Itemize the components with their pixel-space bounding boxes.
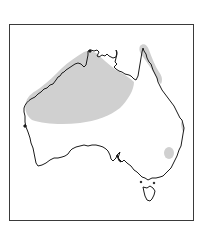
- bass-strait-island: [153, 182, 155, 184]
- distribution-area-north: [25, 51, 134, 124]
- distribution-map: Species distribution map — Australia Aus…: [0, 0, 201, 225]
- arnhem-detail: [89, 50, 91, 52]
- bass-strait-island: [140, 181, 142, 183]
- distribution-areas: [25, 44, 184, 159]
- distribution-area-nsw: [164, 147, 174, 159]
- shark-bay-detail: [24, 125, 26, 127]
- tasmania-coastline: [143, 186, 155, 201]
